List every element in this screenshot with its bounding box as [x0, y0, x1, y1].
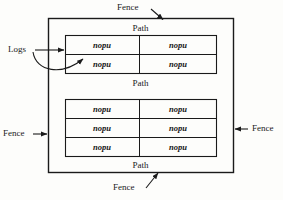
path-label-bottom: Path [65, 161, 216, 170]
fence-label-right: Fence [252, 124, 274, 133]
bed-lower-cell-r1c1: nopu [140, 124, 216, 133]
bed-upper-cell-r0c1: nopu [140, 41, 216, 50]
fence-label-bottom: Fence [113, 183, 135, 192]
bed-lower-cell-r1c0: nopu [65, 124, 139, 133]
bed-upper-cell-r0c0: nopu [65, 41, 139, 50]
diagram-canvas: Fence Fence Fence Fence Logs Path Path P… [0, 0, 283, 200]
bed-lower-cell-r2c1: nopu [140, 143, 216, 152]
fence-bottom-leader [146, 173, 158, 188]
bed-lower-cell-r0c0: nopu [65, 105, 139, 114]
fence-label-left: Fence [3, 129, 25, 138]
path-label-middle: Path [65, 79, 216, 88]
bed-upper-cell-r1c0: nopu [65, 60, 139, 69]
path-label-top: Path [65, 24, 216, 33]
bed-lower-cell-r2c0: nopu [65, 143, 139, 152]
fence-label-top: Fence [117, 3, 139, 12]
logs-label: Logs [8, 45, 26, 54]
bed-upper-cell-r1c1: nopu [140, 60, 216, 69]
bed-lower-cell-r0c1: nopu [140, 105, 216, 114]
